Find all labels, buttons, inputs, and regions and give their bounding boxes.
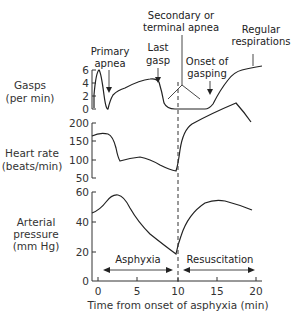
svg-text:Resuscitation: Resuscitation	[187, 254, 254, 265]
annotation-text: apnea	[94, 58, 125, 69]
svg-text:pressure: pressure	[13, 228, 58, 240]
svg-text:60: 60	[76, 186, 89, 198]
svg-text:200: 200	[69, 117, 89, 129]
x-axis-ticks: 0 5 10 15 20	[95, 285, 263, 297]
pressure-ylabel: Arterial pressure (mm Hg)	[13, 216, 60, 252]
svg-text:10: 10	[171, 285, 184, 297]
annotation-text: Onset of	[186, 56, 229, 67]
heart-rate-ylabel: Heart rate (beats/min)	[2, 147, 63, 172]
annotation-text: gasp	[146, 55, 170, 66]
svg-text:15: 15	[210, 285, 223, 297]
svg-text:0: 0	[95, 285, 102, 297]
gasps-curve	[94, 66, 262, 109]
svg-text:20: 20	[249, 285, 262, 297]
svg-text:(beats/min): (beats/min)	[2, 160, 63, 172]
svg-text:0: 0	[82, 103, 89, 115]
pressure-curve	[92, 195, 252, 254]
svg-text:Arterial: Arterial	[17, 216, 56, 228]
annotation-text: respirations	[232, 36, 291, 47]
svg-text:Gasps: Gasps	[14, 79, 46, 91]
svg-text:(per min): (per min)	[6, 92, 55, 104]
annotation-onset-of-gasping: Onset of gasping	[186, 56, 229, 95]
svg-text:5: 5	[134, 285, 141, 297]
annotation-text: gasping	[187, 68, 227, 79]
svg-text:40: 40	[76, 216, 89, 228]
svg-text:50: 50	[76, 172, 89, 184]
svg-text:0: 0	[82, 275, 89, 287]
svg-text:Heart rate: Heart rate	[5, 147, 59, 159]
svg-text:20: 20	[76, 246, 89, 258]
svg-text:Asphyxia: Asphyxia	[115, 254, 160, 265]
annotation-text: Last	[148, 42, 169, 53]
svg-text:100: 100	[69, 154, 89, 166]
annotation-text: Regular	[242, 24, 281, 35]
annotation-last-gasp: Last gasp	[146, 42, 170, 83]
asphyxia-chart: Secondary or terminal apnea Regular resp…	[0, 0, 293, 320]
resuscitation-range: Resuscitation	[183, 254, 255, 273]
x-axis-label: Time from onset of asphyxia (min)	[86, 299, 268, 311]
annotation-text: Secondary or	[148, 10, 215, 21]
svg-text:(mm Hg): (mm Hg)	[13, 240, 60, 252]
annotation-text: Primary	[91, 46, 130, 57]
svg-text:2: 2	[82, 90, 89, 102]
asphyxia-range: Asphyxia	[103, 254, 173, 273]
annotation-text: terminal apnea	[143, 22, 219, 33]
heart-rate-curve	[92, 103, 251, 171]
annotation-regular-respirations: Regular respirations	[232, 24, 291, 66]
svg-text:150: 150	[69, 135, 89, 147]
gasps-ylabel: Gasps (per min)	[6, 79, 55, 104]
heart-rate-axis: 200 150 100 50	[69, 117, 96, 184]
pressure-axis: 60 40 20 0	[76, 186, 262, 287]
svg-text:6: 6	[82, 64, 89, 76]
annotation-primary-apnea: Primary apnea	[91, 46, 130, 93]
svg-text:4: 4	[82, 77, 89, 89]
